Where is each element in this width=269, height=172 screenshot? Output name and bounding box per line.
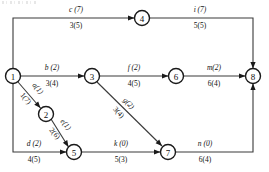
- edge-arrowhead-k: [154, 149, 161, 154]
- edge-labels-group: c (7)3(5)i (7)5(5)b (2)3(4)f (2)4(5)m(2)…: [18, 5, 221, 164]
- edge-name-d: d (2): [27, 139, 42, 148]
- node-label-2: 2: [44, 110, 49, 120]
- edge-duration-c: 3(5): [70, 21, 83, 30]
- network-diagram-canvas: 12345678 c (7)3(5)i (7)5(5)b (2)3(4)f (2…: [0, 0, 269, 172]
- edge-name-f: f (2): [128, 63, 141, 72]
- edge-duration-b: 3(4): [46, 79, 59, 88]
- edge-duration-f: 4(5): [128, 79, 141, 88]
- edge-line-g: [97, 82, 162, 146]
- edge-duration-a: 1(7): [18, 91, 33, 107]
- edge-duration-i: 5(5): [194, 21, 207, 30]
- edge-duration-d: 4(5): [28, 155, 41, 164]
- edge-arrowhead-m: [239, 73, 246, 78]
- edge-duration-g: 3(4): [111, 105, 127, 121]
- edge-name-n: n (0): [198, 139, 213, 148]
- edge-name-a: a(1): [30, 81, 45, 97]
- edge-duration-m: 6(4): [208, 79, 221, 88]
- edge-name-m: m(2): [207, 63, 222, 72]
- node-label-1: 1: [11, 72, 16, 82]
- edge-name-i: i (7): [194, 5, 207, 14]
- edge-arrowhead-f: [162, 73, 169, 78]
- edge-name-e: e(1): [59, 117, 74, 132]
- network-diagram-svg: 12345678 c (7)3(5)i (7)5(5)b (2)3(4)f (2…: [0, 0, 269, 172]
- node-label-5: 5: [72, 148, 77, 158]
- edge-name-k: k (0): [114, 139, 128, 148]
- edge-duration-e: 2(6): [47, 126, 62, 142]
- node-label-7: 7: [166, 148, 171, 158]
- edge-duration-n: 6(4): [199, 155, 212, 164]
- edge-arrowhead-b: [78, 73, 85, 78]
- node-label-4: 4: [140, 14, 145, 24]
- edge-arrowhead-c: [128, 15, 135, 20]
- edge-name-b: b (2): [45, 63, 60, 72]
- node-label-6: 6: [174, 72, 179, 82]
- edge-name-c: c (7): [69, 5, 83, 14]
- node-label-8: 8: [251, 72, 256, 82]
- edge-duration-k: 5(3): [115, 155, 128, 164]
- edge-arrowhead-i: [250, 62, 255, 69]
- edge-line-n: [176, 84, 254, 153]
- edge-arrowhead-d: [60, 149, 67, 154]
- edge-arrowhead-n: [250, 84, 255, 91]
- node-label-3: 3: [90, 72, 95, 82]
